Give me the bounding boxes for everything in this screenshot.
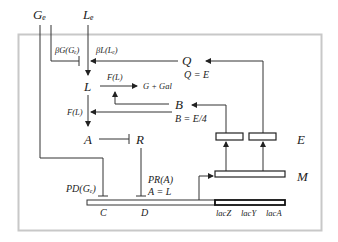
node-b: B — [175, 98, 183, 111]
label-beta-l: βL(Lₑ) — [96, 46, 118, 55]
label-f-l-top: F(L) — [107, 73, 123, 82]
gene-laca: lacA — [266, 209, 282, 218]
node-q: Q — [182, 54, 191, 67]
region-c: C — [100, 208, 107, 218]
beta-g-path — [51, 25, 79, 61]
node-l: L — [84, 80, 91, 93]
enzyme-box-2 — [249, 133, 276, 140]
mrna-bar — [215, 171, 285, 177]
node-r: R — [136, 133, 144, 146]
input-le: Lₑ — [83, 8, 94, 21]
node-m: M — [297, 170, 308, 183]
label-beta-g: βG(Gₑ) — [55, 46, 79, 55]
input-ge: Gₑ — [33, 8, 46, 21]
label-q-eq: Q = E — [184, 70, 209, 80]
label-p-r: PR(A) — [148, 175, 173, 185]
enzyme-box-1 — [216, 133, 243, 140]
diagram-lines — [0, 0, 338, 242]
node-e: E — [297, 133, 305, 146]
node-a: A — [84, 133, 92, 146]
label-b-eq: B = E/4 — [175, 114, 207, 124]
dna-bar-genes — [215, 200, 285, 205]
dna-bar-regulatory — [87, 200, 215, 205]
region-d: D — [141, 208, 148, 218]
label-a-eq: A = L — [148, 187, 171, 197]
label-products: G + Gal — [143, 82, 172, 91]
gene-lacy: lacY — [241, 209, 256, 218]
label-f-l-left: F(L) — [67, 108, 83, 117]
gene-lacz: lacZ — [216, 209, 231, 218]
label-p-d: PD(Gₑ) — [66, 184, 96, 194]
